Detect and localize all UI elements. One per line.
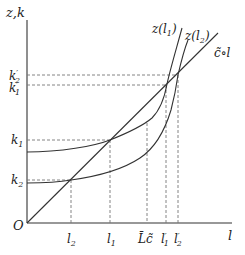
x-tick-L-c-tilde: L̄c̃ [137, 231, 153, 246]
y-axis-label: z,k [5, 5, 25, 20]
y-tick-k2: k2 [11, 173, 23, 189]
x-tick-l2-prime: l′2 [174, 231, 182, 248]
curve-z-l2 [27, 40, 188, 183]
line-c-tilde-l [27, 33, 218, 223]
curve-z-l1 [27, 28, 182, 152]
x-tick-l1: l1 [107, 232, 116, 248]
y-tick-k1: k1 [11, 133, 23, 149]
label-c-tilde-l: c̃∘l [214, 46, 231, 60]
x-tick-l1-prime: l′1 [161, 231, 169, 248]
label-z-l1: z(l1) [151, 22, 177, 38]
diagram-canvas: z,k l O k′2 k′1 k1 k2 l2 l1 L̄c̃ l′1 l′2… [0, 0, 245, 255]
origin-label: O [13, 218, 24, 233]
x-tick-l2: l2 [67, 232, 76, 248]
x-axis-label: l [228, 228, 232, 243]
label-z-l2: z(l2) [184, 29, 210, 45]
